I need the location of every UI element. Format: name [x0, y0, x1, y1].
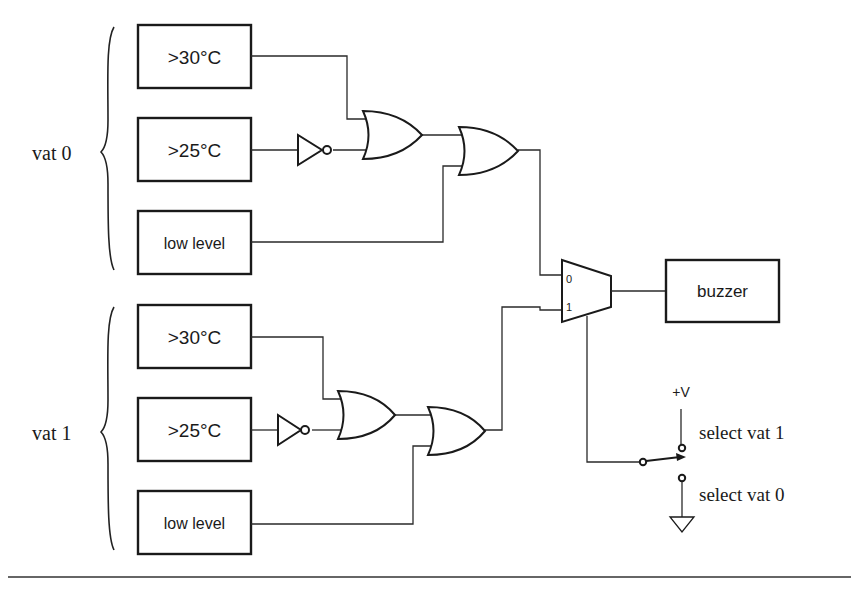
vat-1-label: vat 1: [32, 422, 71, 444]
vat-0-brace: [101, 27, 114, 270]
vat-1-sensor-low-level-label: low level: [164, 515, 225, 532]
vat-0-label: vat 0: [32, 142, 71, 164]
vat-0-not-bubble-icon: [323, 146, 331, 154]
switch-lever-icon: [646, 457, 680, 461]
vat-0-sensor-25c-label: >25°C: [168, 140, 222, 161]
vat-1-wire-to-mux: [485, 307, 563, 430]
logic-circuit-diagram: vat 0 >30°C >25°C low level vat 1 >30°C …: [0, 0, 851, 590]
select-switch-group: +V select vat 1 select vat 0: [587, 316, 784, 532]
switch-contact-top-icon: [679, 445, 685, 451]
select-vat-0-label: select vat 0: [699, 484, 784, 505]
vat-1-brace: [101, 307, 114, 550]
switch-arrow-icon: [676, 453, 686, 461]
vat-0-group: vat 0 >30°C >25°C low level: [32, 25, 563, 275]
select-vat-1-label: select vat 1: [699, 422, 784, 443]
wire-select-line: [587, 316, 641, 462]
mux-group: 0 1 buzzer: [562, 260, 779, 322]
vat-1-not-bubble-icon: [301, 426, 309, 434]
switch-contact-bottom-icon: [679, 475, 685, 481]
vat-0-wire-30c: [251, 56, 366, 119]
vat-0-wire-to-mux: [518, 150, 563, 275]
mux-input-1-label: 1: [566, 301, 572, 313]
mux-input-0-label: 0: [566, 273, 572, 285]
vat-0-or-gate-2-icon: [459, 127, 518, 175]
vat-0-not-gate-icon: [298, 135, 322, 165]
vat-0-sensor-30c-label: >30°C: [168, 47, 222, 68]
vat-1-wire-30c: [251, 337, 342, 399]
buzzer-label: buzzer: [697, 282, 748, 301]
supply-label: +V: [672, 384, 690, 400]
vat-1-wire-low-level: [251, 446, 433, 524]
vat-1-not-gate-icon: [278, 415, 301, 445]
vat-0-or-gate-1-icon: [363, 111, 422, 159]
vat-0-sensor-low-level-label: low level: [164, 235, 225, 252]
vat-1-group: vat 1 >30°C >25°C low level: [32, 305, 563, 554]
vat-1-sensor-30c-label: >30°C: [168, 327, 222, 348]
vat-1-or-gate-1-icon: [338, 391, 395, 439]
vat-1-sensor-25c-label: >25°C: [168, 420, 222, 441]
ground-icon: [670, 517, 694, 532]
vat-0-wire-low-level: [251, 166, 463, 242]
switch-pivot-icon: [640, 459, 646, 465]
vat-1-or-gate-2-icon: [428, 407, 485, 455]
